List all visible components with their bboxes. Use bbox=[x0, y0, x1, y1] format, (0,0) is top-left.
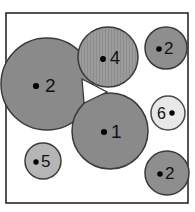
circle-region-right-light[interactable] bbox=[151, 96, 185, 130]
circle-region-top-center-point-marker bbox=[100, 56, 106, 62]
circle-region-bottom-right-point-marker bbox=[157, 171, 163, 177]
circle-region-bottom-left-point-marker bbox=[33, 159, 38, 164]
circle-region-top-right-point-marker bbox=[156, 46, 162, 52]
circle-region-center-label: 1 bbox=[111, 121, 122, 142]
circle-region-bottom-left-label: 5 bbox=[41, 152, 50, 171]
circle-packing-figure: 2421652 bbox=[0, 0, 195, 212]
circle-region-center[interactable] bbox=[72, 93, 148, 169]
circle-region-right-light-label: 6 bbox=[157, 105, 166, 122]
circle-region-right-light-point-marker bbox=[169, 110, 174, 115]
diagram-canvas: 2421652 bbox=[0, 0, 195, 212]
circle-region-top-center[interactable] bbox=[78, 27, 138, 87]
circle-region-center-point-marker bbox=[101, 129, 107, 135]
circle-region-top-center-label: 4 bbox=[110, 48, 120, 68]
circle-region-left-large-point-marker bbox=[33, 83, 39, 89]
circle-region-top-right-label: 2 bbox=[164, 39, 173, 58]
circle-region-left-large-label: 2 bbox=[45, 75, 56, 96]
circle-region-bottom-right-label: 2 bbox=[165, 164, 174, 183]
